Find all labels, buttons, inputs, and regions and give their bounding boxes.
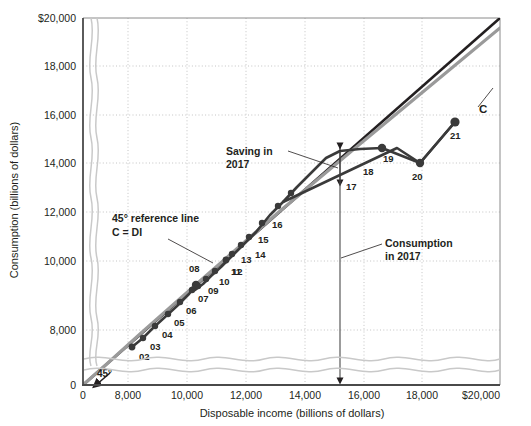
svg-text:18,000: 18,000	[406, 389, 438, 401]
point-label-12: 12	[232, 266, 243, 277]
y-axis-title: Consumption (billions of dollars)	[8, 122, 20, 279]
svg-text:16,000: 16,000	[44, 109, 76, 121]
svg-text:$20,000: $20,000	[38, 12, 76, 24]
data-point-18	[288, 190, 294, 196]
svg-text:0: 0	[70, 379, 76, 391]
data-point-13	[229, 251, 235, 257]
data-point-05	[165, 311, 171, 317]
chart-canvas: 02 03 04 05 06 07 08 09 10 11 12 13 14 1…	[0, 0, 531, 426]
point-label-03: 03	[150, 341, 161, 352]
point-label-07: 07	[198, 293, 209, 304]
svg-text:14,000: 14,000	[289, 389, 321, 401]
point-label-18: 18	[363, 166, 374, 177]
point-label-17: 17	[346, 181, 357, 192]
data-point-20	[416, 159, 424, 167]
point-label-16: 16	[272, 219, 283, 230]
consumption-2017-line2: in 2017	[385, 250, 421, 262]
consumption-function-chart: 02 03 04 05 06 07 08 09 10 11 12 13 14 1…	[0, 0, 531, 426]
data-point-02	[129, 344, 136, 351]
data-point-15	[246, 234, 252, 240]
point-label-08: 08	[189, 263, 200, 274]
data-point-12	[223, 257, 230, 264]
data-point-09	[195, 283, 201, 289]
point-label-09: 09	[208, 285, 219, 296]
data-point-04	[152, 323, 158, 329]
point-label-20: 20	[412, 171, 423, 182]
data-point-03	[140, 335, 146, 341]
reference-annotation-line2: C = DI	[112, 226, 142, 238]
data-point-19	[378, 144, 386, 152]
data-point-10	[203, 276, 209, 282]
y-tick-labels: $20,000 18,000 16,000 14,000 12,000 10,0…	[38, 12, 76, 391]
svg-text:8,000: 8,000	[50, 324, 76, 336]
point-label-14: 14	[255, 249, 266, 260]
svg-text:0: 0	[80, 389, 86, 401]
svg-text:14,000: 14,000	[44, 157, 76, 169]
data-point-06	[177, 299, 183, 305]
data-point-17	[275, 203, 281, 209]
x-axis-title: Disposable income (billions of dollars)	[200, 407, 385, 419]
saving-annotation-line2: 2017	[226, 158, 250, 170]
point-label-19: 19	[383, 153, 394, 164]
svg-text:10,000: 10,000	[44, 255, 76, 267]
data-point-16	[259, 220, 265, 226]
data-point-21	[450, 117, 459, 126]
data-point-11	[212, 268, 218, 274]
point-label-10: 10	[219, 276, 230, 287]
point-label-05: 05	[174, 317, 185, 328]
svg-text:8,000: 8,000	[115, 389, 141, 401]
saving-annotation-line1: Saving in	[226, 145, 273, 157]
point-label-06: 06	[186, 305, 197, 316]
x-tick-labels: 0 8,000 10,000 12,000 14,000 16,000 18,0…	[80, 389, 500, 401]
point-label-04: 04	[162, 329, 173, 340]
point-label-13: 13	[241, 254, 252, 265]
svg-text:12,000: 12,000	[230, 389, 262, 401]
point-label-15: 15	[258, 234, 269, 245]
consumption-2017-line1: Consumption	[385, 237, 453, 249]
svg-text:18,000: 18,000	[44, 60, 76, 72]
reference-annotation-line1: 45° reference line	[112, 212, 199, 224]
svg-text:16,000: 16,000	[348, 389, 380, 401]
consumption-curve-label: C	[479, 103, 487, 115]
svg-text:10,000: 10,000	[171, 389, 203, 401]
point-label-21: 21	[450, 130, 461, 141]
data-point-14	[238, 242, 244, 248]
svg-text:$20,000: $20,000	[462, 389, 500, 401]
svg-text:12,000: 12,000	[44, 206, 76, 218]
